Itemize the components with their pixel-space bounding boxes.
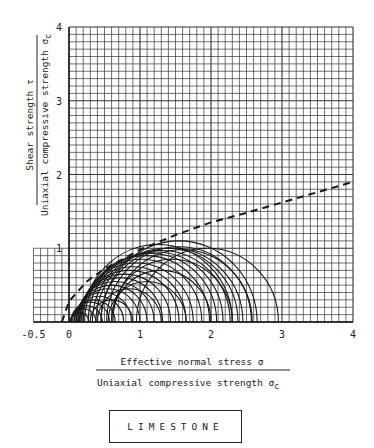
y-label-denominator: Uniaxial compressive strength σc [39,34,53,216]
x-label-denominator: Uniaxial compressive strength σc [97,377,279,391]
x-tick-label: 1 [137,329,143,340]
x-tick-label: 2 [208,329,214,340]
legend-label: LIMESTONE [127,421,223,432]
y-tick-label: 3 [56,96,62,107]
x-tick-label: 3 [279,329,285,340]
x-tick-label: 4 [350,329,356,340]
x-tick-label: 0 [66,329,72,340]
y-tick-label: 1 [56,243,62,254]
mohr-chart: -0.501234 1234 Effective normal stress σ… [0,0,374,448]
y-label-numerator: Shear strength τ [24,79,35,171]
x-label-numerator: Effective normal stress σ [121,356,264,367]
x-tick-label: -0.5 [21,329,45,340]
y-tick-label: 4 [56,22,62,33]
y-tick-label: 2 [56,170,62,181]
x-axis-ticks: -0.501234 [21,329,356,340]
mohr-circles [70,241,278,322]
y-label: Shear strength τ Uniaxial compressive st… [24,34,53,216]
y-axis-ticks: 1234 [56,22,62,254]
legend-box: LIMESTONE [109,410,242,443]
